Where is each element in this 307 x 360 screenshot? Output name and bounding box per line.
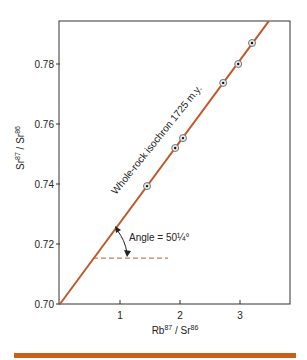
data-point bbox=[172, 145, 179, 152]
y-tick-label: 0.72 bbox=[35, 239, 55, 250]
data-point-dot bbox=[146, 185, 148, 187]
y-tick-label: 0.74 bbox=[35, 179, 55, 190]
arrowhead-bottom-icon bbox=[124, 250, 131, 257]
angle-arc-arrow bbox=[117, 230, 127, 253]
data-point bbox=[235, 61, 242, 68]
data-point-dot bbox=[174, 147, 176, 149]
data-point bbox=[220, 79, 227, 86]
data-point-dot bbox=[251, 42, 253, 44]
x-tick-label: 3 bbox=[237, 310, 243, 321]
y-axis-label: Sr87 / Sr86 bbox=[14, 126, 26, 170]
y-tick-label: 0.76 bbox=[35, 119, 55, 130]
data-point bbox=[144, 183, 151, 190]
data-point bbox=[180, 135, 187, 142]
x-tick-label: 1 bbox=[117, 310, 123, 321]
y-tick-label: 0.70 bbox=[35, 299, 55, 310]
data-point-dot bbox=[222, 82, 224, 84]
x-tick-label: 2 bbox=[177, 310, 183, 321]
data-point-dot bbox=[182, 137, 184, 139]
plot-frame bbox=[59, 21, 290, 304]
decorative-bottom-bar bbox=[14, 353, 296, 358]
y-tick-label: 0.78 bbox=[35, 59, 55, 70]
data-point bbox=[249, 40, 256, 47]
isochron-label: Whole-rock isochron 1725 m.y. bbox=[109, 83, 204, 196]
x-axis-label: Rb87 / Sr86 bbox=[152, 324, 199, 336]
data-point-dot bbox=[237, 63, 239, 65]
angle-annotation: Angle = 50¼° bbox=[129, 232, 189, 243]
isochron-chart: 1230.700.720.740.760.78 Whole-rock isoch… bbox=[0, 0, 307, 360]
